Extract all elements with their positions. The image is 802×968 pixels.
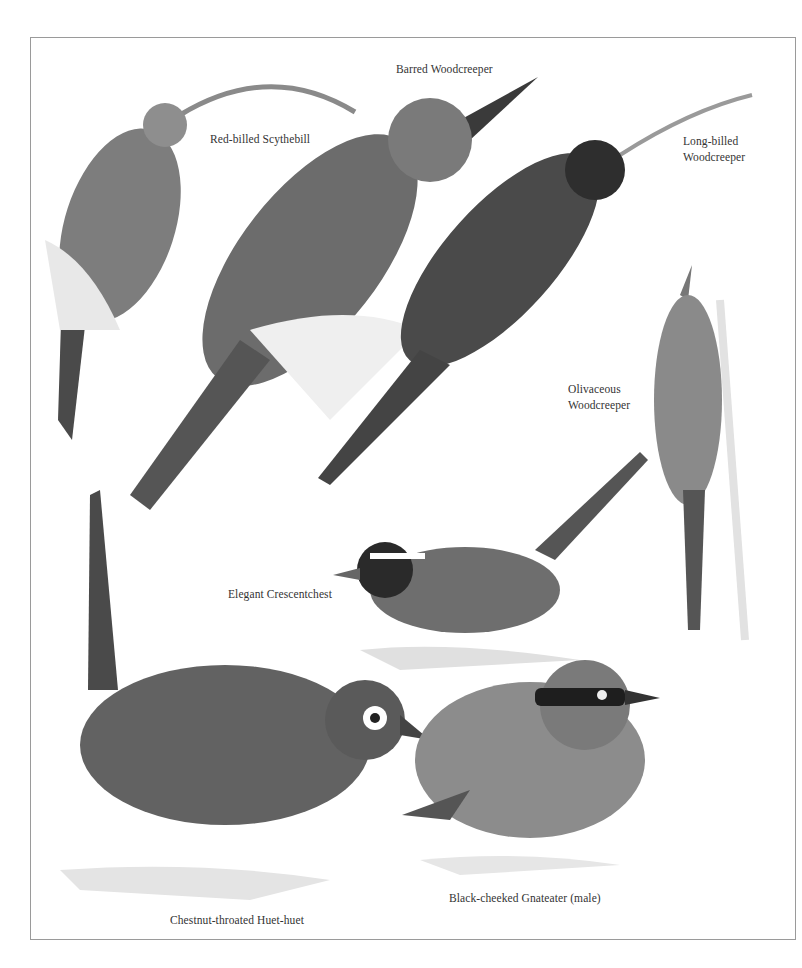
label-elegant-crescentchest: Elegant Crescentchest (228, 587, 332, 603)
label-black-cheeked-gnateater: Black-cheeked Gnateater (male) (449, 891, 601, 907)
label-long-billed-woodcreeper-line2: Woodcreeper (683, 150, 745, 166)
bird-illustrations (0, 0, 802, 968)
olivaceous-woodcreeper-illustration (654, 265, 745, 640)
label-olivaceous-woodcreeper-line1: Olivaceous (568, 382, 621, 398)
black-cheeked-gnateater-illustration (402, 660, 660, 875)
label-olivaceous-woodcreeper-line2: Woodcreeper (568, 398, 630, 414)
label-barred-woodcreeper: Barred Woodcreeper (396, 62, 493, 78)
label-chestnut-throated-huet-huet: Chestnut-throated Huet-huet (170, 913, 304, 929)
elegant-crescentchest-illustration (333, 452, 648, 670)
label-red-billed-scythebill: Red-billed Scythebill (210, 132, 310, 148)
label-long-billed-woodcreeper-line1: Long-billed (683, 134, 738, 150)
